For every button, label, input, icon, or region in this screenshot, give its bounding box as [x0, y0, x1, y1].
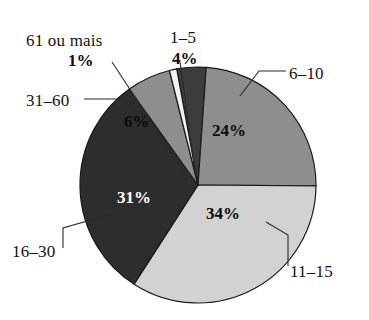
slice-percent-31-60: 6%: [124, 113, 150, 130]
callout-percent-61-ou-mais: 1%: [68, 52, 94, 70]
slice-percent-16-30: 31%: [117, 189, 151, 206]
callout-percent-1-5: 4%: [172, 50, 198, 68]
callout-label-61-ou-mais: 61 ou mais: [26, 32, 103, 50]
callout-label-16-30: 16–30: [12, 243, 56, 261]
slice-percent-11-15: 34%: [206, 205, 240, 222]
callout-label-11-15: 11–15: [290, 263, 333, 281]
callout-label-1-5: 1–5: [170, 29, 196, 47]
pie-chart-figure: 61 ou mais 1% 1–5 4% 31–60 6–10 11–15 16…: [0, 0, 369, 320]
pie-slices: [80, 67, 316, 303]
slice-percent-6-10: 24%: [212, 122, 246, 139]
callout-label-6-10: 6–10: [289, 65, 324, 83]
callout-label-31-60: 31–60: [26, 92, 70, 110]
